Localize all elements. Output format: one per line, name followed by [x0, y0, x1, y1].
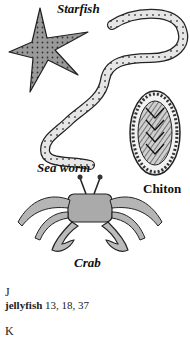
index-term: jellyfish — [5, 299, 42, 311]
crab-drawing — [18, 175, 162, 252]
index-pages: 13, 18, 37 — [45, 299, 89, 311]
starfish-drawing — [9, 8, 88, 92]
sea-creatures-drawing — [0, 0, 190, 270]
index-letter-j: J — [5, 285, 10, 300]
chiton-drawing — [130, 91, 180, 175]
sea-creatures-illustration: Starfish Sea worm Chiton Crab — [0, 0, 190, 270]
index-entry-jellyfish: jellyfish 13, 18, 37 — [5, 299, 89, 311]
sea-worm-label: Sea worm — [37, 160, 90, 176]
crab-label: Crab — [74, 255, 101, 271]
index-letter-k: K — [5, 324, 14, 339]
chiton-label: Chiton — [143, 181, 181, 197]
starfish-label: Starfish — [57, 1, 100, 17]
